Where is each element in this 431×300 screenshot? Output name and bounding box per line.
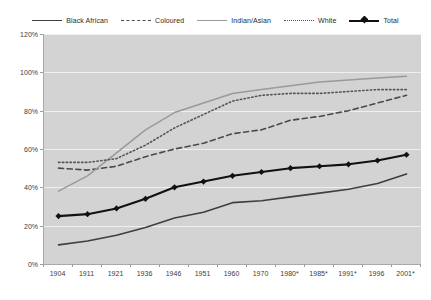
series-marker (374, 157, 380, 163)
series-marker (142, 196, 148, 202)
legend-swatch-icon (349, 16, 379, 25)
x-tick-label: 1921 (108, 270, 124, 277)
legend-label: Total (383, 17, 398, 24)
series-line (59, 90, 407, 163)
series-line (59, 95, 407, 170)
series-marker (113, 205, 119, 211)
x-tick-mark (362, 264, 363, 267)
x-axis-labels: 190419111921193619461951196019701980*198… (43, 270, 421, 284)
series-marker (403, 152, 409, 158)
x-tick-mark (188, 264, 189, 267)
legend-label: Coloured (155, 17, 184, 24)
x-tick-label: 1946 (166, 270, 182, 277)
x-tick-mark (101, 264, 102, 267)
series-marker (258, 169, 264, 175)
x-tick-label: 1911 (79, 270, 94, 277)
series-marker (200, 178, 206, 184)
series-line (59, 155, 407, 216)
x-tick-mark (246, 264, 247, 267)
series-marker (171, 184, 177, 190)
chart-container: Black AfricanColouredIndian/AsianWhiteTo… (0, 0, 431, 300)
x-tick-mark (275, 264, 276, 267)
y-axis-ticks (0, 0, 43, 264)
x-tick-label: 1980* (280, 270, 298, 277)
x-tick-mark (304, 264, 305, 267)
x-tick-mark (72, 264, 73, 267)
x-tick-mark (43, 264, 44, 267)
series-lines (44, 34, 421, 264)
legend-item-white[interactable]: White (284, 13, 336, 27)
x-tick-label: 1985* (309, 270, 327, 277)
x-tick-label: 1960 (224, 270, 240, 277)
x-tick-mark (130, 264, 131, 267)
x-tick-label: 1991* (338, 270, 356, 277)
x-tick-mark (420, 264, 421, 267)
series-marker (287, 165, 293, 171)
x-tick-mark (391, 264, 392, 267)
x-tick-label: 1996 (369, 270, 385, 277)
legend-item-indian-asian[interactable]: Indian/Asian (197, 13, 271, 27)
series-marker (84, 211, 90, 217)
series-marker (316, 163, 322, 169)
x-tick-label: 1936 (137, 270, 153, 277)
x-tick-mark (333, 264, 334, 267)
series-marker (229, 173, 235, 179)
x-axis-ticks (43, 264, 421, 268)
legend-swatch-icon (197, 16, 227, 25)
x-tick-label: 1951 (195, 270, 211, 277)
series-total (55, 152, 409, 220)
x-tick-label: 2001* (396, 270, 414, 277)
x-tick-mark (159, 264, 160, 267)
legend-label: Indian/Asian (231, 17, 271, 24)
legend-item-black-african[interactable]: Black African (32, 13, 108, 27)
legend-item-total[interactable]: Total (349, 13, 398, 27)
legend-label: White (318, 17, 336, 24)
legend-swatch-icon (121, 16, 151, 25)
x-tick-label: 1970 (253, 270, 269, 277)
series-marker (345, 161, 351, 167)
chart-legend: Black AfricanColouredIndian/AsianWhiteTo… (0, 13, 431, 27)
series-white (59, 90, 407, 163)
series-marker (55, 213, 61, 219)
legend-item-coloured[interactable]: Coloured (121, 13, 184, 27)
series-coloured (59, 95, 407, 170)
x-tick-mark (217, 264, 218, 267)
legend-label: Black African (66, 17, 108, 24)
x-tick-label: 1904 (50, 270, 66, 277)
legend-swatch-icon (284, 16, 314, 25)
plot-area (43, 34, 421, 265)
